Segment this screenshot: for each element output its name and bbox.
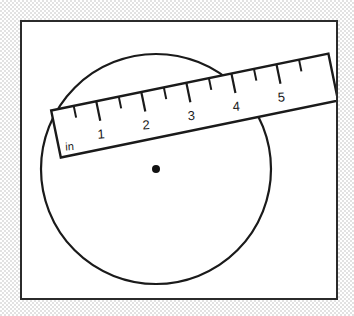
ruler-number-5: 5 (277, 89, 285, 104)
ruler-number-2: 2 (142, 117, 150, 132)
ruler: in 1 2 3 4 5 (51, 54, 336, 158)
ruler-number-4: 4 (232, 99, 240, 114)
circle-center-dot (152, 165, 160, 173)
ruler-number-3: 3 (187, 108, 195, 123)
figure-frame: in 1 2 3 4 5 (20, 20, 338, 300)
ruler-body (51, 54, 336, 158)
geometry-figure: in 1 2 3 4 5 (22, 22, 336, 298)
ruler-number-1: 1 (97, 126, 105, 141)
ruler-unit-label: in (65, 140, 74, 153)
